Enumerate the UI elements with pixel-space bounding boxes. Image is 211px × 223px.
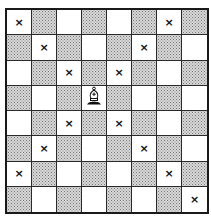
board-square: [57, 10, 82, 35]
board-square: [82, 187, 107, 212]
board-square: [157, 136, 182, 161]
attacked-square-mark: ×: [164, 17, 173, 28]
board-square: [132, 86, 157, 111]
board-square: [82, 111, 107, 136]
board-square: [182, 86, 207, 111]
board-square: [132, 61, 157, 86]
board-square: [132, 10, 157, 35]
attacked-square-mark: ×: [14, 17, 23, 28]
board-square: ×: [132, 35, 157, 60]
board-square: [182, 61, 207, 86]
board-square: [182, 35, 207, 60]
board-square: [82, 136, 107, 161]
attacked-square-mark: ×: [164, 168, 173, 179]
board-square: [57, 187, 82, 212]
board-square: ×: [32, 35, 57, 60]
board-square: [7, 61, 32, 86]
board-square: ×: [182, 187, 207, 212]
board-square: [57, 136, 82, 161]
board-square: [132, 162, 157, 187]
attacked-square-mark: ×: [114, 118, 123, 129]
attacked-square-mark: ×: [64, 118, 73, 129]
attacked-square-mark: ×: [14, 168, 23, 179]
chessboard: ×××××××××××××: [5, 8, 209, 214]
board-square: [7, 111, 32, 136]
board-square: [57, 86, 82, 111]
board-square: [132, 111, 157, 136]
board-square: [7, 187, 32, 212]
board-square: [182, 10, 207, 35]
attacked-square-mark: ×: [64, 67, 73, 78]
board-square: [82, 35, 107, 60]
board-square: [57, 35, 82, 60]
board-square: [7, 35, 32, 60]
attacked-square-mark: ×: [139, 42, 148, 53]
board-square: [107, 10, 132, 35]
board-square: [182, 111, 207, 136]
board-square: ×: [32, 136, 57, 161]
board-square: [132, 187, 157, 212]
board-square: [32, 61, 57, 86]
board-square: [157, 86, 182, 111]
board-square: ×: [107, 61, 132, 86]
board-square: [7, 86, 32, 111]
board-square: [57, 162, 82, 187]
board-square: [107, 162, 132, 187]
board-square: [82, 86, 107, 111]
attacked-square-mark: ×: [139, 143, 148, 154]
board-square: [157, 111, 182, 136]
board-square: [32, 10, 57, 35]
board-square: ×: [157, 10, 182, 35]
attacked-square-mark: ×: [39, 42, 48, 53]
board-square: [7, 136, 32, 161]
board-square: ×: [132, 136, 157, 161]
attacked-square-mark: ×: [190, 194, 199, 205]
board-square: [32, 111, 57, 136]
board-square: [32, 162, 57, 187]
board-square: [32, 187, 57, 212]
board-square: [82, 162, 107, 187]
attacked-square-mark: ×: [39, 143, 48, 154]
board-square: [107, 35, 132, 60]
board-square: [157, 35, 182, 60]
board-square: [107, 136, 132, 161]
board-square: ×: [107, 111, 132, 136]
board-square: [182, 162, 207, 187]
board-square: [32, 86, 57, 111]
board-square: [182, 136, 207, 161]
board-square: [157, 187, 182, 212]
board-square: [107, 86, 132, 111]
board-square: [82, 10, 107, 35]
board-square: [157, 61, 182, 86]
bishop-icon: [85, 86, 103, 110]
board-square: [82, 61, 107, 86]
board-square: ×: [7, 10, 32, 35]
attacked-square-mark: ×: [114, 67, 123, 78]
board-square: ×: [57, 61, 82, 86]
board-square: [107, 187, 132, 212]
board-square: ×: [157, 162, 182, 187]
board-square: ×: [57, 111, 82, 136]
board-square: ×: [7, 162, 32, 187]
